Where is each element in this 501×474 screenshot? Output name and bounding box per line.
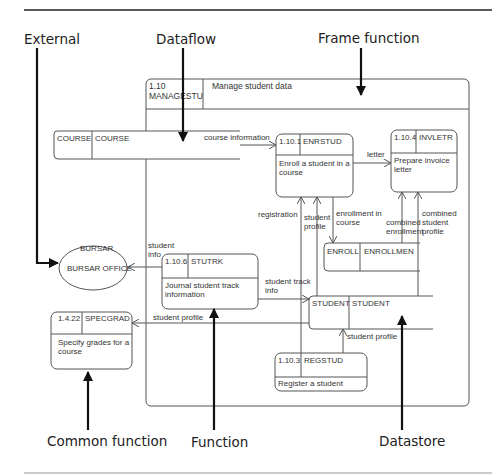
frame-id: 1.10 — [149, 81, 166, 91]
frame-title: Manage student data — [212, 81, 292, 91]
function-desc-2: letter — [394, 165, 412, 174]
external-bursar-office[interactable]: BURSAR BURSAR OFFICE — [59, 244, 132, 290]
function-code: INVLETR — [419, 133, 453, 142]
function-code: REGSTUD — [304, 356, 343, 365]
flow-label-csp-2: student — [422, 218, 449, 227]
datastore-course-right: COURSE — [95, 134, 129, 143]
flow-label-course-information: course information — [204, 133, 270, 142]
frame-code: MANAGESTU — [149, 91, 203, 101]
flow-label-student-track-1: student track — [265, 277, 312, 286]
function-desc: Journal student track — [165, 281, 240, 290]
function-invletr[interactable]: 1.10.4 INVLETR Prepare invoice letter — [391, 130, 457, 192]
function-id: 1.10.1 — [279, 137, 302, 146]
common-function-specgrad[interactable]: 1.4.22 SPECGRAD Specify grades for a cou… — [51, 312, 132, 369]
flow-label-enrollment-1: enrollment in — [336, 209, 382, 218]
callout-dataflow: Dataflow — [156, 31, 216, 47]
function-id: 1.10.4 — [394, 133, 417, 142]
function-desc: Enroll a student in a — [279, 159, 350, 168]
datastore-course-left: COURSE — [57, 134, 91, 143]
datastore-student-left: STUDENT — [312, 299, 350, 308]
function-enrstud[interactable]: 1.10.1 ENRSTUD Enroll a student in a cou… — [276, 134, 353, 197]
function-desc-2: course — [279, 168, 304, 177]
function-code: STUTRK — [191, 257, 224, 266]
common-function-id: 1.4.22 — [58, 314, 81, 323]
flow-label-student-track-2: info — [265, 286, 278, 295]
common-function-desc: Specify grades for a — [58, 338, 130, 347]
datastore-student-right: STUDENT — [352, 299, 390, 308]
flow-label-combined-enrollment-1: combined — [386, 218, 421, 227]
function-desc: Register a student — [278, 379, 344, 388]
flow-label-student-profile-a2: profile — [304, 222, 326, 231]
callout-common-function: Common function — [47, 433, 167, 449]
flow-label-student-profile-b: student profile — [153, 313, 204, 322]
dataflow-diagram: External Dataflow Frame function Common … — [0, 0, 501, 474]
callout-external: External — [24, 31, 80, 47]
function-id: 1.10.6 — [165, 257, 188, 266]
function-regstud[interactable]: 1.10.3 REGSTUD Register a student — [275, 353, 367, 391]
callout-frame-function: Frame function — [318, 30, 420, 46]
flow-label-student-info-2: info — [148, 250, 161, 259]
datastore-enroll-left: ENROLL — [327, 247, 360, 256]
function-code: ENRSTUD — [303, 137, 342, 146]
flow-label-letter: letter — [367, 150, 385, 159]
function-id: 1.10.3 — [278, 356, 301, 365]
datastore-enroll-right: ENROLLMEN — [364, 247, 414, 256]
flow-label-student-info-1: student — [148, 241, 175, 250]
external-name: BURSAR OFFICE — [67, 264, 132, 273]
flow-label-student-profile-c: student profile — [347, 332, 398, 341]
flow-label-enrollment-2: course — [336, 218, 361, 227]
external-top-label: BURSAR — [80, 244, 114, 253]
flow-label-student-profile-a1: student — [304, 213, 331, 222]
datastore-enroll[interactable]: ENROLL ENROLLMEN — [324, 243, 420, 271]
common-function-desc-2: course — [58, 347, 83, 356]
function-stutrk[interactable]: 1.10.6 STUTRK Journal student track info… — [162, 254, 258, 309]
function-desc: Prepare invoice — [394, 156, 450, 165]
flow-label-registration: registration — [258, 210, 298, 219]
function-desc-2: information — [165, 290, 205, 299]
callout-function: Function — [191, 434, 248, 450]
flow-label-csp-1: combined — [422, 209, 457, 218]
common-function-code: SPECGRAD — [85, 314, 130, 323]
flow-label-csp-3: profile — [422, 227, 444, 236]
callout-datastore: Datastore — [379, 433, 445, 449]
datastore-student[interactable]: STUDENT STUDENT — [309, 296, 433, 329]
